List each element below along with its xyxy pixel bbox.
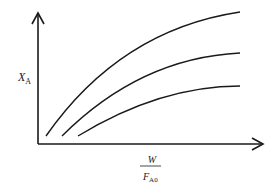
x-label-denominator: FA0	[142, 171, 158, 184]
curve-top	[46, 12, 240, 136]
y-axis-label: XA	[17, 70, 31, 86]
y-axis	[32, 13, 44, 144]
x-axis	[38, 138, 263, 150]
curve-bottom	[78, 86, 240, 136]
x-label-numerator: W	[148, 154, 158, 165]
curve-middle	[62, 53, 240, 136]
diagram: XA W FA0	[0, 0, 278, 193]
